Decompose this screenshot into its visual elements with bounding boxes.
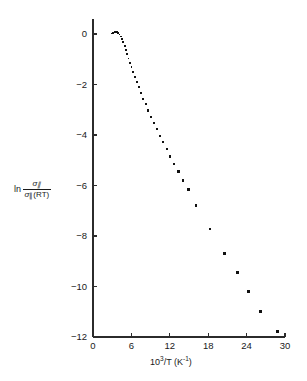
data-point — [195, 204, 198, 207]
data-point — [136, 81, 138, 83]
data-point — [131, 66, 133, 68]
figure-container: 06121824300−2−4−6−8−10−12 ln σ∥ σ∥(RT) 1… — [0, 0, 307, 381]
data-point — [121, 38, 123, 40]
data-point — [156, 128, 158, 130]
data-point — [259, 310, 262, 313]
y-axis-tick-label: −6 — [76, 180, 87, 191]
x-axis-close-paren: ) — [189, 357, 192, 367]
data-point — [147, 109, 149, 111]
data-point — [119, 34, 121, 36]
data-point — [187, 188, 190, 191]
y-axis-tick-label: −10 — [71, 281, 87, 292]
data-point — [209, 228, 212, 231]
data-point — [236, 271, 239, 274]
x-axis-base: 10 — [150, 357, 160, 367]
data-point — [177, 170, 179, 172]
data-point — [134, 76, 136, 78]
data-point — [120, 36, 122, 38]
data-point — [138, 86, 140, 88]
x-axis-tick-label: 30 — [280, 340, 291, 351]
data-point — [247, 290, 250, 293]
x-axis-tick-label: 0 — [90, 340, 95, 351]
data-point — [125, 49, 127, 51]
data-point — [166, 148, 168, 150]
x-axis-tick-label: 18 — [203, 340, 214, 351]
y-axis-denominator: σ∥(RT) — [23, 190, 52, 199]
data-point — [122, 41, 124, 43]
y-axis-tick-label: 0 — [82, 28, 87, 39]
data-point — [153, 122, 155, 124]
tick-labels-group: 06121824300−2−4−6−8−10−12 — [71, 28, 290, 351]
x-axis-tick-label: 6 — [129, 340, 134, 351]
x-axis-divider: /T (K — [164, 357, 183, 367]
ticks-group — [93, 34, 285, 337]
data-point — [169, 155, 171, 157]
data-point — [276, 330, 279, 333]
data-point — [159, 135, 161, 137]
data-point — [129, 62, 131, 64]
y-axis-tick-label: −8 — [76, 230, 87, 241]
data-points-group — [111, 31, 279, 333]
x-axis-tick-label: 12 — [165, 340, 176, 351]
y-axis-ln-text: ln — [14, 185, 21, 195]
y-axis-tick-label: −2 — [76, 79, 87, 90]
x-axis-tick-label: 24 — [241, 340, 252, 351]
data-point — [150, 116, 152, 118]
data-point — [140, 92, 142, 94]
data-point — [173, 163, 175, 165]
data-point — [162, 141, 164, 143]
data-point — [132, 71, 134, 73]
y-axis-tick-label: −12 — [71, 331, 87, 342]
y-axis-title: ln σ∥ σ∥(RT) — [14, 180, 51, 199]
y-axis-fraction: σ∥ σ∥(RT) — [23, 180, 52, 199]
axes-group — [93, 19, 285, 337]
data-point — [142, 98, 144, 100]
data-point — [223, 252, 226, 255]
data-point — [126, 53, 128, 55]
y-axis-tick-label: −4 — [76, 129, 87, 140]
data-point — [128, 58, 130, 60]
data-point — [182, 179, 185, 182]
y-axis-numerator: σ∥ — [30, 180, 43, 189]
data-point — [124, 45, 126, 47]
data-point — [145, 103, 147, 105]
x-axis-title: 103/T (K-1) — [150, 355, 192, 368]
